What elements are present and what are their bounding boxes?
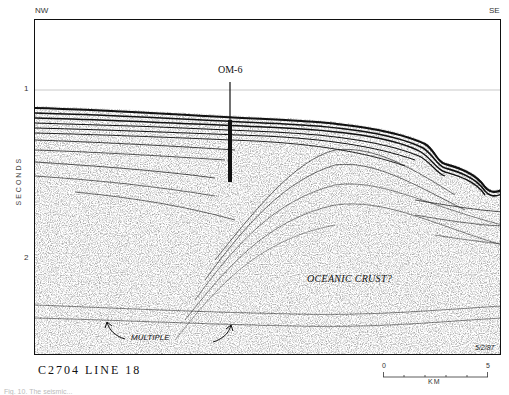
direction-se-label: SE xyxy=(489,6,500,15)
scale-unit: KM xyxy=(428,378,441,385)
scale-end: 5 xyxy=(486,362,490,369)
y-axis-label: SECONDS xyxy=(15,166,22,206)
seismic-profile-frame: OM-6 OCEANIC CRUST? MULTIPLE 5/2/87 xyxy=(34,19,501,355)
seismic-section-graphic xyxy=(35,20,501,355)
figure-caption-partial: Fig. 10. The seismic... xyxy=(4,388,72,395)
y-tick-1: 1 xyxy=(24,84,28,93)
y-tick-2: 2 xyxy=(24,253,28,262)
direction-nw-label: NW xyxy=(35,6,48,15)
date-label: 5/2/87 xyxy=(475,344,494,351)
well-core xyxy=(228,120,232,182)
multiple-label: MULTIPLE xyxy=(131,333,170,342)
scale-start: 0 xyxy=(382,362,386,369)
well-om6-label: OM-6 xyxy=(218,64,242,75)
scale-bar: 0 5 KM xyxy=(380,362,490,386)
line-caption: C2704 LINE 18 xyxy=(38,363,141,378)
oceanic-crust-label: OCEANIC CRUST? xyxy=(307,273,392,284)
